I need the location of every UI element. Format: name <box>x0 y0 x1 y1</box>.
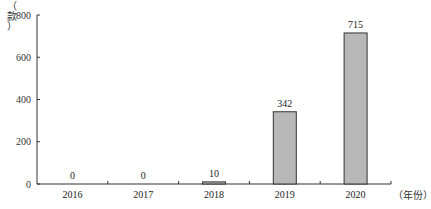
value-label-2016: 0 <box>70 170 75 181</box>
x-tick-label-2016: 2016 <box>62 189 82 200</box>
y-tick-label: 0 <box>26 179 31 190</box>
bar-2020 <box>344 33 367 184</box>
x-tick-label-2017: 2017 <box>133 189 153 200</box>
value-label-2020: 715 <box>348 19 363 30</box>
value-label-2017: 0 <box>141 170 146 181</box>
x-tick-label-2019: 2019 <box>275 189 295 200</box>
y-axis-label: （ 款 ） <box>6 2 18 32</box>
y-tick-label: 200 <box>16 136 31 147</box>
bar-2019 <box>273 112 296 184</box>
y-tick-label: 600 <box>16 52 31 63</box>
y-axis-label-paren-close: ） <box>6 22 18 32</box>
x-tick-label-2018: 2018 <box>204 189 224 200</box>
value-label-2019: 342 <box>277 98 292 109</box>
x-axis-unit-label: （年份） <box>393 187 431 202</box>
value-label-2018: 10 <box>209 168 219 179</box>
x-tick-label-2020: 2020 <box>346 189 366 200</box>
bar-2018 <box>203 182 226 184</box>
y-tick-label: 400 <box>16 94 31 105</box>
y-tick-label: 800 <box>16 10 31 21</box>
